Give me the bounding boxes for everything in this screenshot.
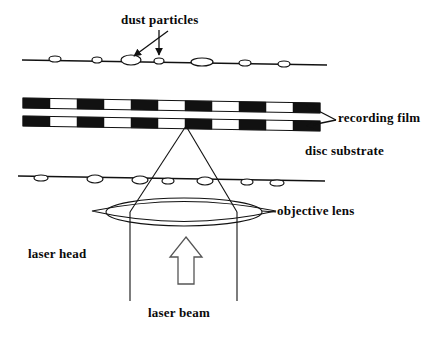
recording-film-upper-segment	[77, 99, 104, 109]
dust-particle	[49, 56, 61, 62]
substrate-pit	[241, 179, 253, 185]
recording-film-upper-segment	[293, 103, 320, 113]
label-laser-beam: laser beam	[148, 305, 210, 321]
dust-particles-leader-diagonal	[134, 31, 168, 56]
substrate-pit	[270, 180, 284, 186]
recording-film-upper-segment	[23, 98, 50, 108]
label-dust-particles: dust particles	[121, 12, 199, 28]
recording-film-upper-segment	[239, 102, 266, 112]
dust-particle	[154, 58, 164, 64]
label-recording-film: recording film	[338, 110, 420, 126]
laser-direction-up-arrow	[170, 237, 202, 284]
dust-particle	[191, 58, 213, 66]
dust-particle	[121, 55, 141, 65]
recording-film-upper-outline	[23, 98, 320, 113]
label-laser-head: laser head	[28, 246, 86, 262]
recording-film-lower-segment	[185, 119, 212, 129]
recording-film-lower-outline	[23, 116, 320, 131]
recording-film-lower-segment	[77, 117, 104, 127]
recording-film-lower-segment	[239, 120, 266, 130]
dust-particle	[92, 57, 102, 63]
dust-particle	[278, 61, 290, 67]
recording-film-upper-segment	[185, 101, 212, 111]
optical-disc-diagram	[0, 0, 437, 341]
recording-film-lower-segment	[23, 116, 50, 126]
recording-film-lower-segment	[131, 118, 158, 128]
substrate-pit	[162, 178, 174, 184]
recording-film-upper-segment	[131, 100, 158, 110]
dust-particle	[239, 60, 251, 66]
substrate-pit	[197, 177, 213, 185]
label-objective-lens: objective lens	[277, 203, 355, 219]
substrate-pit	[132, 176, 148, 184]
label-disc-substrate: disc substrate	[305, 143, 384, 159]
substrate-pit	[34, 175, 48, 181]
recording-film-lower-segment	[293, 121, 320, 131]
diagram-canvas: dust particles recording film disc subst…	[0, 0, 437, 341]
substrate-pit	[87, 175, 103, 183]
